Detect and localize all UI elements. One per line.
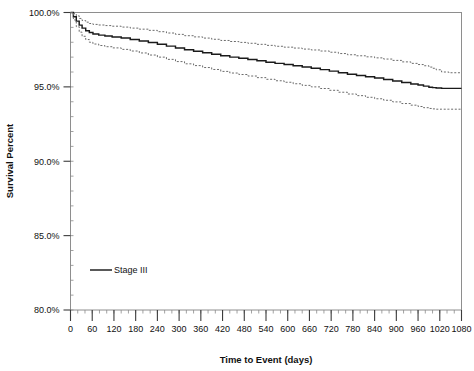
y-tick-label: 80.0% [34,305,60,315]
x-tick-label: 240 [150,324,165,334]
x-tick-label: 1020 [430,324,450,334]
y-axis-minor-ticks [71,13,74,311]
x-tick-label: 1080 [451,324,471,334]
x-tick-label: 0 [68,324,73,334]
x-tick-label: 180 [128,324,143,334]
x-tick-label: 840 [367,324,382,334]
x-tick-label: 60 [87,324,97,334]
chart-background [0,0,474,371]
x-tick-label: 660 [302,324,317,334]
y-tick-label: 85.0% [34,231,60,241]
y-axis-title: Survival Percent [4,123,15,198]
chart-canvas: 80.0%85.0%90.0%95.0%100.0% 0601201802403… [0,0,474,371]
x-tick-label: 300 [172,324,187,334]
x-tick-label: 120 [106,324,121,334]
x-tick-label: 900 [389,324,404,334]
survival-curve-figure: 80.0%85.0%90.0%95.0%100.0% 0601201802403… [0,0,474,371]
y-tick-label: 100.0% [29,8,60,18]
x-tick-label: 540 [258,324,273,334]
x-tick-label: 360 [193,324,208,334]
x-tick-label: 480 [237,324,252,334]
x-axis-tick-labels: 0601201802403003604204805406006607207808… [68,324,472,334]
x-tick-label: 720 [324,324,339,334]
y-tick-label: 95.0% [34,82,60,92]
x-tick-label: 960 [411,324,426,334]
x-tick-label: 780 [345,324,360,334]
legend-label: Stage III [114,265,148,275]
x-tick-label: 420 [215,324,230,334]
x-tick-label: 600 [280,324,295,334]
x-axis-title: Time to Event (days) [220,354,313,365]
y-tick-label: 90.0% [34,157,60,167]
